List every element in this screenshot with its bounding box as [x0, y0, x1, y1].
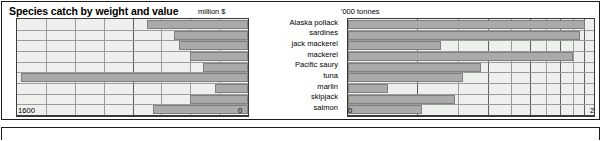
right-chart-bars: [348, 19, 594, 115]
bar: [147, 20, 248, 29]
chart-panel: Species catch by weight and value millio…: [1, 1, 600, 120]
category-label: Alaska pollack: [289, 18, 338, 28]
bar: [190, 95, 248, 104]
bar: [348, 105, 422, 114]
bar: [215, 84, 248, 93]
bar: [348, 73, 463, 82]
category-label: Pacific saury: [295, 60, 338, 70]
bar: [174, 31, 248, 40]
right-axis-min-tick: 0: [348, 106, 352, 115]
right-axis-line: [347, 116, 595, 117]
left-axis-max-tick: 1600: [18, 106, 35, 115]
right-chart-plot-area: [347, 18, 595, 116]
category-label: sardines: [309, 28, 338, 38]
left-axis-line: [16, 116, 249, 117]
bar: [179, 41, 248, 50]
secondary-panel: [1, 127, 600, 140]
bar: [348, 31, 580, 40]
right-axis-max-tick: 2: [590, 106, 594, 115]
bar: [153, 105, 248, 114]
bar: [21, 73, 248, 82]
bar: [348, 63, 481, 72]
category-label: jack mackerel: [292, 39, 338, 49]
left-chart-plot-area: [16, 18, 249, 116]
category-label: skipjack: [311, 92, 338, 102]
right-unit-label: '000 tonnes: [341, 7, 380, 16]
category-label: marlin: [317, 82, 338, 92]
category-label: salmon: [314, 103, 338, 113]
bar: [190, 52, 248, 61]
bar: [348, 95, 455, 104]
category-label: mackerel: [307, 50, 338, 60]
left-chart-bars: [17, 19, 248, 115]
category-label: tuna: [323, 71, 338, 81]
left-unit-label: million $: [198, 7, 226, 16]
bar: [348, 41, 441, 50]
bar: [348, 52, 573, 61]
bar: [348, 84, 388, 93]
left-axis-min-tick: 0: [238, 106, 242, 115]
screenshot-root: Species catch by weight and value millio…: [0, 0, 603, 141]
category-label-list: Alaska pollacksardinesjack mackerelmacke…: [252, 18, 342, 116]
bar: [348, 20, 585, 29]
bar: [203, 63, 248, 72]
page-title: Species catch by weight and value: [9, 5, 178, 17]
